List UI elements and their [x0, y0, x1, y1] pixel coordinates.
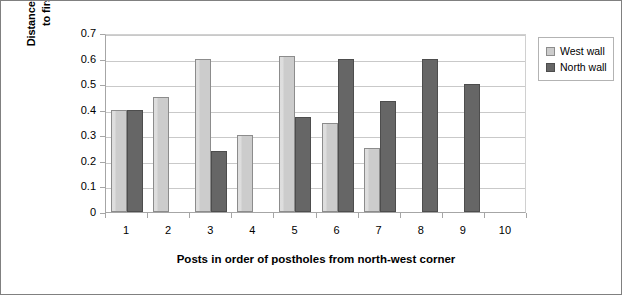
y-tick-mark [100, 111, 105, 112]
x-tick-mark [231, 213, 232, 218]
bar-north-wall-1 [127, 110, 143, 212]
bar-west-wall-1 [111, 110, 127, 212]
x-tick-mark [358, 213, 359, 218]
bar-west-wall-5 [279, 56, 295, 212]
y-axis-title-line2: to first joint in metres [39, 0, 54, 26]
x-tick-mark [442, 213, 443, 218]
y-tick-mark [100, 136, 105, 137]
bar-north-wall-6 [338, 59, 354, 212]
y-tick-label: 0.4 [55, 104, 96, 116]
bar-north-wall-3 [211, 151, 227, 212]
x-tick-mark [273, 213, 274, 218]
bar-west-wall-2 [153, 97, 169, 212]
x-tick-mark [189, 213, 190, 218]
bar-west-wall-7 [364, 148, 380, 212]
legend-swatch-icon [546, 63, 555, 72]
bar-north-wall-8 [422, 59, 438, 212]
legend-label: West wall [560, 45, 605, 57]
y-tick-mark [100, 34, 105, 35]
y-tick-label: 0.2 [55, 155, 96, 167]
x-tick-mark [400, 213, 401, 218]
x-tick-label-4: 4 [232, 224, 272, 236]
bar-north-wall-9 [464, 84, 480, 212]
bar-west-wall-6 [322, 123, 338, 213]
x-axis-title: Posts in order of postholes from north-w… [105, 253, 527, 265]
y-tick-label: 0 [55, 206, 96, 218]
x-tick-label-9: 9 [443, 224, 483, 236]
x-tick-mark [147, 213, 148, 218]
y-tick-label: 0.1 [55, 180, 96, 192]
y-tick-mark [100, 213, 105, 214]
bar-north-wall-5 [295, 117, 311, 212]
x-tick-label-3: 3 [190, 224, 230, 236]
x-tick-label-7: 7 [359, 224, 399, 236]
plot-area [105, 34, 526, 213]
y-tick-mark [100, 60, 105, 61]
legend-item-west-wall[interactable]: West wall [546, 44, 607, 58]
gridline [106, 61, 525, 62]
y-axis-title-line1: Distance from bottom of post [24, 0, 39, 46]
x-tick-mark [105, 213, 106, 218]
y-tick-label: 0.7 [55, 27, 96, 39]
x-tick-label-6: 6 [317, 224, 357, 236]
bar-west-wall-4 [237, 135, 253, 212]
legend-swatch-icon [546, 47, 555, 56]
x-tick-label-8: 8 [401, 224, 441, 236]
x-tick-mark [484, 213, 485, 218]
y-tick-mark [100, 162, 105, 163]
x-tick-mark [316, 213, 317, 218]
legend-item-north-wall[interactable]: North wall [546, 60, 607, 74]
x-tick-mark [526, 213, 527, 218]
x-tick-label-1: 1 [106, 224, 146, 236]
chart-legend: West wallNorth wall [538, 37, 614, 81]
chart-figure: Distance from bottom of post to first jo… [0, 0, 622, 295]
gridline [106, 35, 525, 36]
x-tick-label-5: 5 [274, 224, 314, 236]
bar-west-wall-3 [195, 59, 211, 212]
y-tick-label: 0.5 [55, 78, 96, 90]
y-tick-mark [100, 187, 105, 188]
bar-north-wall-7 [380, 101, 396, 212]
y-tick-label: 0.6 [55, 53, 96, 65]
y-tick-label: 0.3 [55, 129, 96, 141]
x-axis: 12345678910 [105, 213, 526, 247]
y-tick-mark [100, 85, 105, 86]
gridline [106, 86, 525, 87]
x-tick-label-10: 10 [485, 224, 525, 236]
legend-label: North wall [560, 61, 607, 73]
x-tick-label-2: 2 [148, 224, 188, 236]
